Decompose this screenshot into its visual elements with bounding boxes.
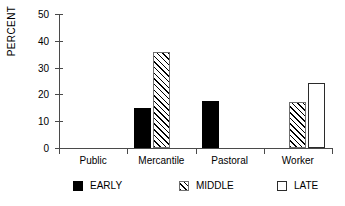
legend-item-middle: MIDDLE — [179, 180, 234, 191]
bar-worker-late — [308, 83, 325, 148]
legend-label: MIDDLE — [196, 180, 234, 191]
x-tick — [127, 148, 128, 154]
y-tick-label: 40 — [38, 35, 49, 46]
chart-legend: EARLYMIDDLELATE — [59, 180, 332, 196]
y-tick-label: 20 — [38, 89, 49, 100]
y-tick-label: 10 — [38, 116, 49, 127]
chart-figure: PERCENT 01020304050 PublicMercantilePast… — [0, 0, 345, 206]
x-tick — [59, 148, 60, 154]
x-label-worker: Worker — [282, 155, 314, 166]
y-axis-title: PERCENT — [6, 0, 20, 66]
x-label-mercantile: Mercantile — [138, 155, 184, 166]
x-label-pastoral: Pastoral — [211, 155, 248, 166]
y-tick-label: 50 — [38, 9, 49, 20]
y-tick: 40 — [55, 41, 63, 42]
legend-item-late: LATE — [277, 180, 318, 191]
legend-item-early: EARLY — [73, 180, 122, 191]
filled-black-square-icon — [73, 181, 83, 191]
bar-mercantile-early — [134, 108, 151, 148]
y-tick: 30 — [55, 68, 63, 69]
bar-mercantile-middle — [153, 52, 170, 148]
y-tick: 10 — [55, 121, 63, 122]
x-tick — [196, 148, 197, 154]
hatched-square-icon — [179, 181, 189, 191]
bar-worker-middle — [289, 102, 306, 148]
y-tick: 50 — [55, 14, 63, 15]
plot-area: 01020304050 — [59, 14, 332, 149]
y-tick: 20 — [55, 94, 63, 95]
y-tick-label: 0 — [43, 143, 49, 154]
x-label-public: Public — [80, 155, 107, 166]
bar-pastoral-early — [202, 101, 219, 148]
legend-label: EARLY — [90, 180, 122, 191]
y-tick-label: 30 — [38, 62, 49, 73]
empty-square-icon — [277, 181, 287, 191]
y-axis-line — [59, 14, 60, 149]
legend-label: LATE — [294, 180, 318, 191]
x-tick — [264, 148, 265, 154]
x-tick — [332, 148, 333, 154]
